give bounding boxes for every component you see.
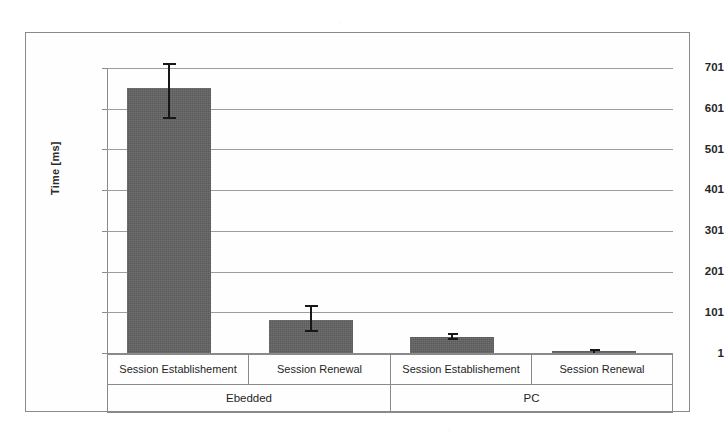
error-bar-cap-lower-3 — [448, 338, 458, 340]
error-bar-line-1 — [168, 63, 170, 118]
error-bar-line-2 — [310, 305, 312, 331]
y-tick-label-501: 501 — [678, 144, 724, 156]
y-axis-title: Time [ms] — [49, 173, 61, 195]
error-bar-cap-upper-3 — [448, 333, 458, 335]
y-tick-label-1: 1 — [678, 348, 724, 360]
error-bar-cap-lower-2 — [305, 330, 318, 332]
error-bar-cap-lower-1 — [163, 117, 176, 119]
error-bar-cap-upper-2 — [305, 305, 318, 307]
y-tick-label-601: 601 — [678, 103, 724, 115]
bar-embedded-session-establishement — [127, 88, 211, 353]
category-label-pc-establishement: Session Establishement — [390, 354, 531, 384]
error-bar-cap-upper-4 — [590, 349, 600, 351]
gridline-701 — [107, 68, 673, 69]
category-label-embedded-renewal: Session Renewal — [248, 354, 390, 384]
category-label-band: Session Establishement Session Renewal S… — [107, 354, 673, 412]
y-tick-label-701: 701 — [678, 62, 724, 74]
y-tick-label-301: 301 — [678, 225, 724, 237]
category-band-bottom-rule — [107, 412, 673, 413]
y-tick-label-201: 201 — [678, 266, 724, 278]
y-tick-label-401: 401 — [678, 184, 724, 196]
group-label-pc: PC — [390, 384, 673, 412]
plot-area — [107, 68, 673, 353]
group-label-embedded: Ebedded — [107, 384, 390, 412]
y-tick-label-101: 101 — [678, 307, 724, 319]
category-label-pc-renewal: Session Renewal — [531, 354, 673, 384]
error-bar-cap-upper-1 — [163, 63, 176, 65]
category-label-embedded-establishement: Session Establishement — [107, 354, 248, 384]
